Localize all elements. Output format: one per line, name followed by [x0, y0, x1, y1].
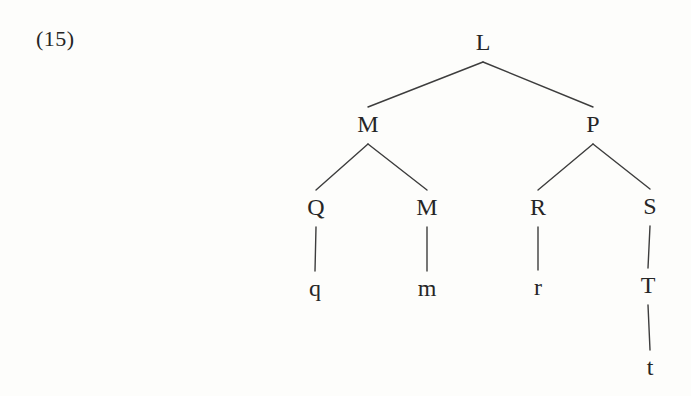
tree-node-r: r — [534, 274, 542, 300]
tree-edge-L-P — [483, 62, 593, 107]
tree-node-T: T — [641, 272, 656, 298]
tree-node-M2: M — [416, 194, 437, 220]
page: (15) LMPQMRSqmrTt — [0, 0, 691, 396]
tree-edge-L-M1 — [368, 62, 483, 107]
tree-edge-Q-q — [315, 227, 316, 271]
tree-node-L: L — [476, 29, 491, 55]
tree-edge-M1-Q — [316, 144, 368, 190]
tree-node-M1: M — [357, 111, 378, 137]
tree-edge-M1-M2 — [368, 144, 427, 190]
tree-node-q: q — [309, 275, 321, 301]
tree-node-R: R — [530, 194, 546, 220]
tree-edge-P-R — [538, 144, 593, 190]
tree-node-S: S — [643, 193, 656, 219]
tree-edge-P-S — [593, 144, 650, 189]
tree-node-Q: Q — [307, 194, 324, 220]
tree-node-m: m — [418, 275, 437, 301]
tree-edge-T-t — [648, 305, 650, 350]
tree-edge-S-T — [648, 226, 650, 268]
tree-node-t: t — [647, 354, 654, 380]
tree-diagram: LMPQMRSqmrTt — [0, 0, 691, 396]
tree-node-P: P — [586, 111, 599, 137]
